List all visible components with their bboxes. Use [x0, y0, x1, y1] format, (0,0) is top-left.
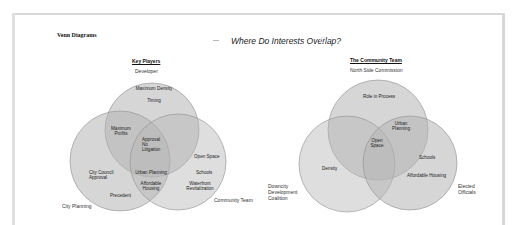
- region-city-community-1: Urban Planning: [135, 170, 167, 175]
- key-players-title: Key Players: [132, 58, 160, 64]
- set-label-downcity-3: Coalition: [268, 195, 287, 201]
- region-right-only-1: Schools: [419, 155, 435, 160]
- circle-community-team: [130, 114, 226, 210]
- region-left-only: Density: [322, 166, 337, 171]
- region-community-4: Revitalization: [186, 186, 213, 191]
- region-city-2: Approval: [89, 175, 107, 180]
- region-all-left-3: Litigation: [142, 147, 160, 152]
- region-top-only: Role in Process: [363, 94, 395, 99]
- region-all-right-2: Space: [370, 143, 383, 148]
- venn-diagrams-svg: [0, 0, 518, 225]
- region-developer-2: Timing: [147, 98, 161, 103]
- set-label-city-planning: City Planning: [62, 203, 91, 209]
- set-label-elected-2: Officials: [458, 189, 476, 195]
- set-label-north-side-commission: North Side Commission: [350, 67, 403, 73]
- region-developer-1: Maximum Density: [136, 86, 173, 91]
- region-community-1: Open Space: [194, 154, 220, 159]
- region-city-3: Precedent: [110, 193, 131, 198]
- set-label-community-team: Community Team: [214, 197, 253, 203]
- region-dev-city-2: Profits: [114, 131, 127, 136]
- region-city-community-3: Housing: [143, 186, 160, 191]
- region-community-2: Schools: [196, 170, 212, 175]
- region-top-right-2: Planning: [392, 126, 410, 131]
- community-team-title: The Community Team: [350, 57, 402, 63]
- set-label-developer: Developer: [135, 68, 158, 74]
- region-right-only-2: Affordable Housing: [407, 173, 446, 178]
